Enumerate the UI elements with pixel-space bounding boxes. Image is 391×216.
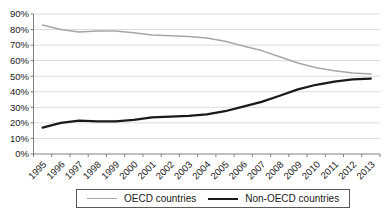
x-tick-label: 1995	[26, 159, 49, 182]
y-tick-label: 60%	[10, 55, 30, 66]
legend-item-oecd: OECD countries	[87, 193, 196, 204]
x-tick-label: 2008	[263, 159, 286, 182]
x-tick-label: 2003	[172, 159, 195, 182]
non-oecd-line-sample	[208, 198, 238, 200]
y-tick-label: 40%	[10, 86, 30, 97]
x-tick-label: 1998	[80, 159, 103, 182]
x-tick-label: 2010	[299, 159, 322, 182]
x-tick-label: 2007	[245, 159, 268, 182]
x-tick-label: 1996	[44, 159, 67, 182]
y-tick-label: 20%	[10, 117, 30, 128]
x-tick-label: 1999	[99, 159, 122, 182]
y-tick-label: 10%	[10, 133, 30, 144]
x-tick-label: 2005	[208, 159, 231, 182]
y-tick-label: 80%	[10, 24, 30, 35]
x-tick-label: 2000	[117, 159, 140, 182]
x-tick-label: 2004	[190, 159, 213, 182]
y-tick-label: 90%	[10, 8, 30, 19]
oecd-line	[43, 25, 371, 74]
chart-plot-area: 0%10%20%30%40%50%60%70%80%90%19951996199…	[0, 0, 391, 216]
x-tick-label: 2001	[135, 159, 158, 182]
x-tick-label: 2013	[354, 159, 377, 182]
oecd-line-sample	[87, 198, 117, 199]
y-tick-label: 0%	[15, 148, 29, 159]
x-tick-label: 2006	[226, 159, 249, 182]
y-tick-label: 50%	[10, 71, 30, 82]
legend: OECD countries Non-OECD countries	[76, 189, 350, 208]
y-tick-label: 70%	[10, 39, 30, 50]
x-tick-label: 2011	[318, 159, 340, 181]
x-tick-label: 2012	[336, 159, 359, 182]
x-tick-label: 2002	[153, 159, 176, 182]
line-chart: 0%10%20%30%40%50%60%70%80%90%19951996199…	[0, 0, 391, 216]
legend-label-oecd: OECD countries	[124, 193, 196, 204]
non-oecd-line	[43, 79, 371, 128]
legend-item-non-oecd: Non-OECD countries	[208, 193, 339, 204]
y-tick-label: 30%	[10, 102, 30, 113]
x-tick-label: 1997	[62, 159, 85, 182]
x-tick-label: 2009	[281, 159, 304, 182]
legend-label-non-oecd: Non-OECD countries	[245, 193, 339, 204]
